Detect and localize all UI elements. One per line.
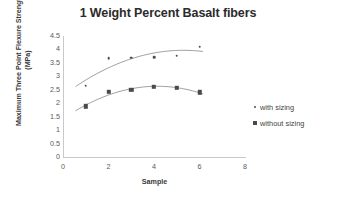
chart-legend: with sizingwithout sizing	[250, 99, 336, 131]
legend-label: with sizing	[260, 103, 294, 112]
data-point	[198, 45, 201, 48]
y-tick-label: 2	[38, 99, 60, 107]
legend-item-1[interactable]: with sizing	[250, 99, 336, 115]
data-point	[175, 55, 178, 58]
y-tick-label: 3	[38, 72, 60, 80]
data-point	[175, 85, 179, 89]
dot-marker-icon	[250, 106, 260, 108]
chart-title: 1 Weight Percent Basalt fibers	[52, 6, 284, 21]
y-axis-title-line-2: (MPa)	[24, 0, 33, 130]
y-tick-label: 1.5	[38, 113, 60, 121]
legend-item-2[interactable]: without sizing	[250, 115, 336, 131]
plot-area	[63, 36, 245, 157]
x-tick-label: 2	[99, 162, 119, 171]
trendlines	[63, 36, 245, 157]
x-tick-label: 6	[190, 162, 210, 171]
y-axis-tick-labels: 00.511.522.533.544.5	[36, 36, 60, 158]
x-tick-label: 8	[235, 162, 255, 171]
data-point	[197, 90, 201, 94]
data-point	[129, 88, 133, 92]
data-point	[153, 56, 156, 59]
chart-container: 1 Weight Percent Basalt fibers Maximum T…	[0, 0, 337, 203]
y-tick-label: 0	[38, 153, 60, 161]
data-point	[152, 85, 156, 89]
data-point	[130, 56, 133, 59]
square-marker-icon	[250, 121, 260, 125]
y-tick-label: 1	[38, 126, 60, 134]
y-tick-label: 3.5	[38, 59, 60, 67]
x-axis-line	[63, 157, 246, 158]
x-tick-label: 0	[53, 162, 73, 171]
data-point	[106, 90, 110, 94]
x-axis-title: Sample	[63, 177, 246, 186]
trendline-1	[76, 50, 203, 86]
x-axis-tick-labels: 02468	[63, 162, 246, 174]
y-tick-label: 4	[38, 45, 60, 53]
x-tick-label: 4	[144, 162, 164, 171]
data-point	[84, 84, 87, 87]
y-axis-title-line-1: Maximum Three Point Flexure Strength	[15, 0, 24, 130]
trendline-2	[76, 86, 203, 111]
data-point	[107, 57, 110, 60]
data-point	[84, 104, 88, 108]
y-tick-label: 0.5	[38, 140, 60, 148]
y-tick-label: 4.5	[38, 32, 60, 40]
y-tick-label: 2.5	[38, 86, 60, 94]
legend-label: without sizing	[260, 119, 304, 128]
